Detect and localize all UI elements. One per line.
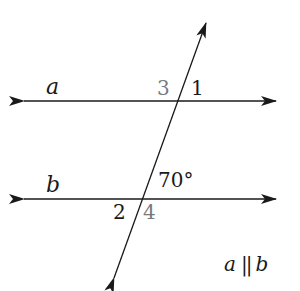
parallel-symbol: || <box>241 252 250 276</box>
angle-3-label: 3 <box>157 76 170 100</box>
line-b-label: b <box>46 172 60 197</box>
angle-1-label: 1 <box>191 76 204 100</box>
transversal-line <box>114 23 206 278</box>
line-a-label: a <box>46 74 59 99</box>
relation-right: b <box>255 252 268 276</box>
diagram-canvas <box>0 0 300 291</box>
angle-4-label: 4 <box>143 200 156 224</box>
parallel-relation: a || b <box>224 252 268 276</box>
angle-2-label: 2 <box>113 200 126 224</box>
relation-left: a <box>224 252 236 276</box>
angle-70-label: 70° <box>158 168 193 192</box>
